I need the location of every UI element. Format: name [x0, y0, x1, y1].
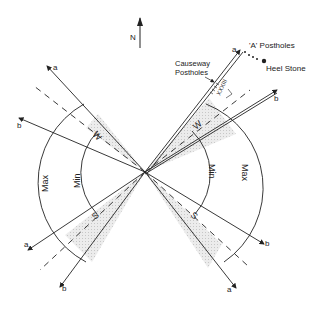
heel-stone-label: Heel Stone — [266, 64, 306, 73]
min-label-right: Min — [207, 164, 217, 179]
a-postholes-dots — [244, 51, 258, 60]
causeway-label-line2: Postholes — [175, 68, 208, 77]
roman-bracket — [226, 89, 232, 98]
ray-label-nw-a: a — [53, 63, 58, 72]
roman-marks: XXXIII — [215, 78, 228, 96]
north-arrow-icon — [137, 17, 143, 48]
ray-label-ne-a: a — [232, 45, 237, 54]
max-label-left: Max — [40, 174, 50, 192]
ray-label-nw-b: b — [17, 121, 22, 130]
ray-label-sw-a: a — [24, 240, 29, 249]
shaded-sectors — [65, 98, 236, 268]
ray-label-ne-b: b — [274, 94, 279, 103]
ray-label-se-b: b — [265, 239, 270, 248]
ray-label-sw-b: b — [62, 284, 67, 293]
min-label-left: Min — [72, 173, 82, 188]
north-label: N — [130, 33, 136, 42]
causeway-pointer — [205, 77, 214, 82]
causeway-label-line1: Causeway — [175, 59, 210, 68]
stonehenge-alignment-diagram: N — [0, 0, 323, 309]
a-postholes-label: 'A' Postholes — [249, 41, 295, 50]
max-label-right: Max — [240, 164, 250, 182]
ray-label-se-a: a — [227, 285, 232, 294]
heel-stone-dot — [262, 59, 266, 63]
